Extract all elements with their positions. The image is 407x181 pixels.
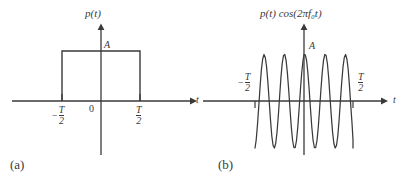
- x-axis-label: t: [393, 95, 396, 105]
- y-axis-arrow-icon: [98, 24, 105, 31]
- x-axis-arrow-icon: [381, 98, 388, 105]
- figure-panel-a: p(t) A 0 t − T 2 T 2 (a): [0, 0, 204, 181]
- minus-sign: −: [238, 78, 244, 88]
- tick-label-positive-half-T: T 2: [358, 72, 364, 93]
- tick-label-negative-half-T: − T 2: [238, 72, 250, 93]
- y-axis-arrow-icon: [301, 24, 308, 31]
- amplitude-label: A: [309, 41, 315, 51]
- fraction-numerator: T: [136, 105, 142, 115]
- minus-sign: −: [52, 111, 58, 121]
- panel-a-plot: [0, 0, 204, 181]
- amplitude-label: A: [104, 40, 110, 50]
- tick-label-negative-half-T: − T 2: [52, 105, 64, 126]
- figure-panel-b: p(t) cos(2πf₀t) A t − T 2 T 2 (b): [203, 0, 407, 181]
- fraction-numerator: T: [245, 72, 251, 82]
- panel-caption-a: (a): [10, 158, 24, 171]
- panel-caption-b: (b): [218, 158, 233, 171]
- x-axis-label: t: [196, 95, 199, 105]
- fraction-numerator: T: [59, 105, 65, 115]
- y-axis-label: p(t): [85, 8, 101, 19]
- fraction-numerator: T: [358, 72, 364, 82]
- tick-label-positive-half-T: T 2: [136, 105, 142, 126]
- fraction-denominator: 2: [136, 115, 141, 126]
- origin-label: 0: [89, 104, 94, 114]
- fraction-denominator: 2: [245, 82, 250, 93]
- panel-b-plot: [203, 0, 407, 181]
- fraction-denominator: 2: [59, 115, 64, 126]
- y-axis-label: p(t) cos(2πf₀t): [260, 8, 322, 19]
- fraction-denominator: 2: [358, 82, 363, 93]
